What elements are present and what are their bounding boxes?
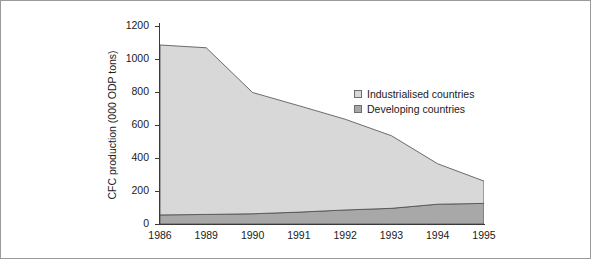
y-axis-tick-label: 1000	[105, 53, 149, 63]
legend-item-developing: Developing countries	[354, 102, 474, 115]
x-axis-tick-label: 1991	[276, 229, 322, 241]
legend-swatch-developing-icon	[354, 105, 362, 113]
x-axis-tick-label: 1995	[461, 229, 507, 241]
x-axis-tick-label: 1990	[230, 229, 276, 241]
y-axis-tick-label: 400	[105, 152, 149, 162]
legend-item-industrialised: Industrialised countries	[354, 87, 474, 100]
area-series-industrialised	[160, 45, 484, 215]
legend-label-developing: Developing countries	[367, 103, 465, 115]
plot-area	[160, 26, 484, 224]
x-axis-tick-label: 1992	[322, 229, 368, 241]
y-axis-tick-label: 1200	[105, 20, 149, 30]
x-axis-line	[159, 224, 485, 225]
legend-swatch-industrialised-icon	[354, 90, 362, 98]
legend-label-industrialised: Industrialised countries	[367, 88, 474, 100]
x-axis-tick-label: 1986	[137, 229, 183, 241]
y-axis-tick-label: 0	[105, 218, 149, 228]
x-axis-tick-label: 1994	[415, 229, 461, 241]
y-axis-tick-label: 200	[105, 185, 149, 195]
x-axis-tick-label: 1993	[368, 229, 414, 241]
chart-legend: Industrialised countries Developing coun…	[354, 87, 474, 117]
y-axis-tick-label: 600	[105, 119, 149, 129]
y-axis-tick-label: 800	[105, 86, 149, 96]
x-axis-tick-label: 1989	[183, 229, 229, 241]
stacked-area-svg	[160, 26, 484, 224]
chart-figure: CFC production (000 ODP tons) 0200400600…	[0, 0, 591, 259]
